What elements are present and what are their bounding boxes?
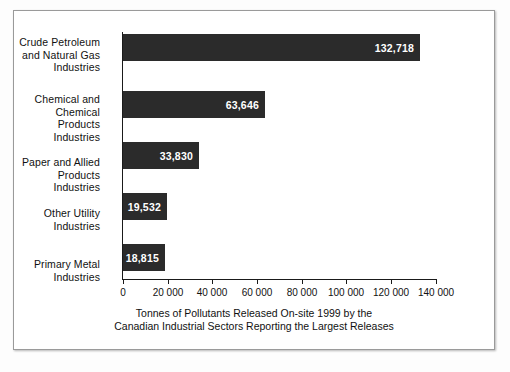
category-label-primary-metal: Primary Metal Industries [34,258,100,283]
tick-label-100000: 100 000 [328,287,364,298]
tick-label-0: 0 [120,287,126,298]
tick-label-120000: 120 000 [373,287,409,298]
tick-mark-100000 [346,279,347,284]
bar-primary-metal: 18,815 [123,244,165,271]
bar-value-crude-petroleum: 132,718 [375,42,420,54]
bar-chemical-products: 63,646 [123,91,265,118]
caption-line-1: Tonnes of Pollutants Released On-site 19… [54,307,454,320]
bar-value-chemical-products: 63,646 [226,99,265,111]
tick-label-20000: 20 000 [153,287,184,298]
bar-value-other-utility: 19,532 [128,201,167,213]
tick-label-60000: 60 000 [242,287,273,298]
figure: Crude Petroleum and Natural Gas Industri… [0,0,510,372]
chart-frame: Crude Petroleum and Natural Gas Industri… [13,10,495,350]
tick-label-40000: 40 000 [197,287,228,298]
bar-other-utility: 19,532 [123,193,167,220]
category-axis-line [122,32,123,279]
tick-mark-140000 [436,279,437,284]
plot-area: Crude Petroleum and Natural Gas Industri… [14,11,496,351]
bar-paper-allied: 33,830 [123,142,199,169]
tick-mark-20000 [168,279,169,284]
bar-value-primary-metal: 18,815 [126,252,165,264]
category-label-chemical-products: Chemical and Chemical Products Industrie… [14,93,100,143]
bar-crude-petroleum: 132,718 [123,34,420,61]
category-label-crude-petroleum: Crude Petroleum and Natural Gas Industri… [19,36,100,74]
tick-mark-120000 [391,279,392,284]
category-label-other-utility: Other Utility Industries [44,207,100,232]
tick-mark-60000 [257,279,258,284]
value-axis-line [122,279,436,280]
caption-line-2: Canadian Industrial Sectors Reporting th… [54,320,454,333]
tick-label-140000: 140 000 [418,287,454,298]
tick-label-80000: 80 000 [287,287,318,298]
tick-mark-0 [123,279,124,284]
axis-caption: Tonnes of Pollutants Released On-site 19… [54,307,454,333]
tick-mark-80000 [302,279,303,284]
tick-mark-40000 [212,279,213,284]
bar-value-paper-allied: 33,830 [160,150,199,162]
category-label-paper-allied: Paper and Allied Products Industries [14,156,100,194]
